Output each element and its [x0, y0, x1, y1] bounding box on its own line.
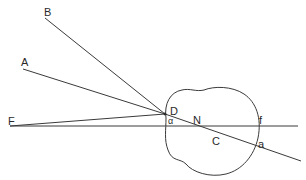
ray-F-to-D [10, 114, 165, 126]
label-F: F [8, 115, 15, 127]
label-A: A [21, 56, 29, 68]
eye-outline [166, 87, 260, 175]
point-D [164, 113, 167, 116]
ray-B [45, 18, 165, 114]
label-a: a [258, 138, 265, 150]
ray-A [23, 69, 165, 114]
label-f: f [259, 114, 263, 126]
label-N: N [193, 114, 201, 126]
label-B: B [44, 6, 51, 18]
eye-ray-diagram: B A F D α N C f a [0, 0, 306, 180]
ray-D-through-N [165, 114, 301, 161]
label-alpha: α [168, 116, 173, 126]
label-C: C [212, 135, 220, 147]
